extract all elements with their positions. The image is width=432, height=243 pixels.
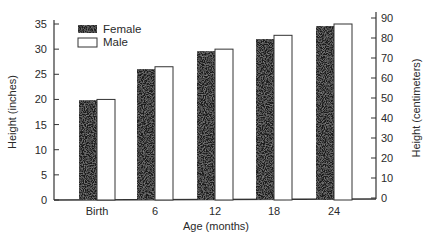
legend-item-male: Male xyxy=(78,36,128,48)
legend-label-female: Female xyxy=(103,23,141,35)
legend-swatch-male xyxy=(78,38,97,47)
bar-series xyxy=(79,24,352,200)
x-tick-labels: Birth6121824 xyxy=(86,205,340,217)
left-tick-label: 25 xyxy=(35,68,47,80)
right-tick-label: 20 xyxy=(381,152,393,164)
left-tick-label: 30 xyxy=(35,43,47,55)
left-y-axis-title: Height (inches) xyxy=(6,75,18,149)
left-y-axis: 05101520253035 xyxy=(35,18,59,206)
right-y-axis: 0102030405060708090 xyxy=(371,12,393,204)
bar-group-birth xyxy=(79,99,115,200)
bar-male xyxy=(215,49,233,200)
legend-item-female: Female xyxy=(78,23,141,35)
bar-group-18 xyxy=(256,35,292,200)
x-tick-label: 12 xyxy=(209,205,221,217)
bar-female xyxy=(137,69,155,200)
bar-female xyxy=(79,101,97,200)
right-tick-label: 60 xyxy=(381,72,393,84)
right-tick-label: 80 xyxy=(381,32,393,44)
left-tick-label: 15 xyxy=(35,119,47,131)
x-axis-title: Age (months) xyxy=(183,220,249,232)
right-y-axis-title: Height (centimeters) xyxy=(410,58,422,157)
legend-swatch-female xyxy=(78,25,97,33)
right-tick-label: 40 xyxy=(381,112,393,124)
x-tick-label: 6 xyxy=(152,205,158,217)
left-tick-label: 5 xyxy=(41,169,47,181)
bar-female xyxy=(256,39,274,200)
bar-female xyxy=(197,52,215,200)
bar-group-6 xyxy=(137,67,173,200)
bar-male xyxy=(274,35,292,200)
right-tick-label: 30 xyxy=(381,132,393,144)
legend: Female Male xyxy=(78,23,141,48)
right-tick-label: 50 xyxy=(381,92,393,104)
right-tick-label: 90 xyxy=(381,12,393,24)
right-tick-label: 70 xyxy=(381,52,393,64)
left-tick-label: 35 xyxy=(35,18,47,30)
right-tick-label: 10 xyxy=(381,172,393,184)
bar-group-12 xyxy=(197,49,233,200)
x-tick-label: 18 xyxy=(268,205,280,217)
legend-label-male: Male xyxy=(103,36,128,48)
bar-chart: 05101520253035 0102030405060708090 Birth… xyxy=(0,0,432,243)
left-tick-label: 20 xyxy=(35,93,47,105)
bar-male xyxy=(97,99,115,200)
bar-group-24 xyxy=(316,24,352,200)
bar-female xyxy=(316,27,334,200)
left-tick-label: 0 xyxy=(41,194,47,206)
bar-male xyxy=(334,24,352,200)
x-tick-label: Birth xyxy=(86,205,109,217)
left-tick-label: 10 xyxy=(35,144,47,156)
bar-male xyxy=(155,67,173,200)
x-tick-label: 24 xyxy=(328,205,340,217)
right-tick-label: 0 xyxy=(381,192,387,204)
